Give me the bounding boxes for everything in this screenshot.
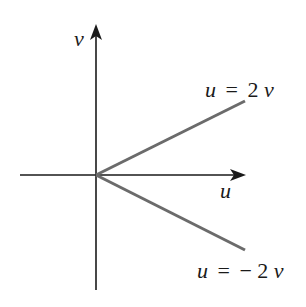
- coordinate-diagram: v u u = 2 v u = − 2 v: [0, 0, 306, 307]
- upper-ray-label-var: v: [264, 77, 274, 102]
- u-axis-label: u: [220, 178, 231, 203]
- upper-ray-label-equals: =: [226, 77, 238, 102]
- upper-ray-u-equals-2v: [96, 101, 245, 175]
- upper-ray-label: u = 2 v: [205, 77, 274, 102]
- lower-ray-label-minus: −: [239, 258, 251, 283]
- lower-ray-label-lhs: u: [197, 258, 208, 283]
- lower-ray-label-equals: =: [218, 258, 230, 283]
- upper-ray-label-coef: 2: [247, 77, 258, 102]
- lower-ray-label: u = − 2 v: [197, 258, 284, 283]
- lower-ray-label-var: v: [274, 258, 284, 283]
- v-axis-label: v: [74, 26, 84, 51]
- upper-ray-label-lhs: u: [205, 77, 216, 102]
- lower-ray-label-coef: 2: [257, 258, 268, 283]
